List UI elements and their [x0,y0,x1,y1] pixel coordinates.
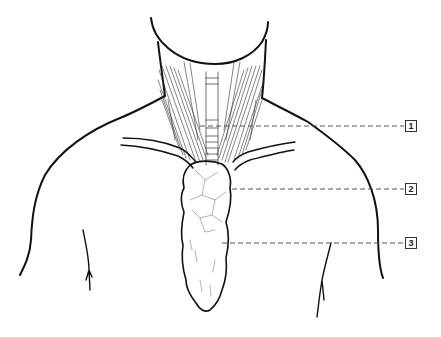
neck-muscles [158,62,264,162]
thymus-lobules [190,170,226,296]
right-chest-mark [317,243,331,317]
label-2: 2 [405,183,417,195]
label-3: 3 [405,237,417,249]
neck-left-outline [20,42,165,275]
neck-right-outline [262,40,383,278]
trachea [206,72,218,165]
left-chest-mark [83,230,92,290]
anatomy-illustration [0,0,441,337]
thymus-outline [181,161,230,311]
jaw-outline [151,18,268,64]
label-1: 1 [405,120,417,132]
